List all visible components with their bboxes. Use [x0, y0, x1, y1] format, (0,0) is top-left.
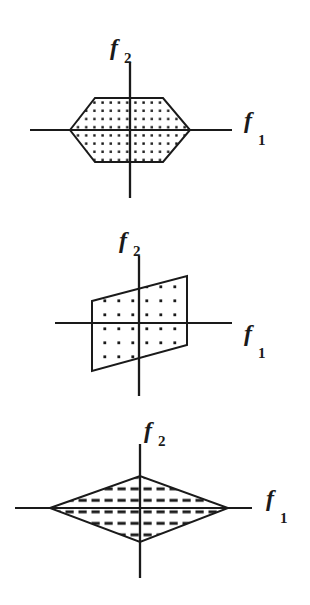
- panel-diamond-y-axis-label: f: [144, 417, 154, 443]
- panel-hexagon-y-axis-subscript: 2: [124, 50, 132, 66]
- panel-hexagon-y-axis-label: f: [110, 34, 120, 60]
- panel-parallelogram-x-axis-label: f: [244, 320, 254, 346]
- panel-parallelogram-y-axis-subscript: 2: [133, 243, 141, 259]
- panel-diamond-y-axis-subscript: 2: [158, 433, 166, 449]
- panel-hexagon: f 2 f 1: [0, 0, 310, 205]
- panel-parallelogram-y-axis-label: f: [119, 227, 129, 253]
- figure-root: f 2 f 1 f 2 f 1: [0, 0, 310, 605]
- panel-diamond: f 2 f 1: [0, 405, 310, 605]
- panel-hexagon-x-axis-label: f: [244, 107, 254, 133]
- panel-diamond-x-axis-label: f: [266, 485, 276, 511]
- panel-hexagon-x-axis-subscript: 1: [258, 132, 266, 148]
- panel-diamond-x-axis-subscript: 1: [280, 510, 288, 526]
- panel-parallelogram-x-axis-subscript: 1: [258, 345, 266, 361]
- panel-parallelogram: f 2 f 1: [0, 205, 310, 405]
